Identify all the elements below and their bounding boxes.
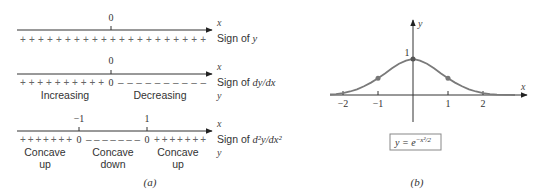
sign-pattern-negative: – – – – – – – [86, 134, 140, 145]
panel-b: x y −2 −1 1 2 1 y = e−x²/2 (b) [330, 18, 527, 189]
caption-a: (a) [144, 176, 157, 189]
tick-label-0: 0 [109, 12, 114, 23]
axis-label-x: x [216, 118, 222, 129]
region-label-concave-down-2: down [100, 158, 125, 170]
region-label-concave-up-left-2: up [39, 158, 51, 170]
region-label-concave-up-right-2: up [172, 158, 184, 170]
tick-label-neg1: −1 [74, 113, 85, 124]
figure: 0 x + + + + + + + + + + + + + + + + + + … [0, 0, 537, 196]
y-axis-label: y [417, 18, 423, 29]
sign-line-d2ydx2: −1 1 x + + + + + + + 0 – – – – – – – 0 +… [17, 113, 282, 170]
x-tick-label-neg2: −2 [338, 98, 349, 109]
max-point [411, 57, 416, 62]
inflection-point-neg1 [376, 76, 381, 81]
sign-pattern-negative: – – – – – – – – – – [118, 77, 206, 88]
region-label-concave-up-right: Concave [157, 146, 199, 158]
caption-b: (b) [411, 176, 424, 189]
zero-marker: 0 [109, 77, 114, 88]
zero-marker: 0 [145, 134, 150, 145]
sign-line-y: 0 x + + + + + + + + + + + + + + + + + + … [17, 12, 258, 45]
x-axis-label: x [520, 81, 526, 92]
var-label-y: y [216, 147, 222, 158]
sign-pattern: + + + + + + + + + + + + + + + + + + + + … [20, 34, 206, 45]
sign-pattern-positive-right: + + + + + + + [154, 134, 206, 145]
x-tick-label-2: 2 [481, 98, 486, 109]
sign-of-label: Sign of y [217, 32, 258, 44]
sign-line-dydx: 0 x + + + + + + + + + + 0 – – – – – – – … [17, 55, 276, 101]
region-label-concave-down: Concave [92, 146, 134, 158]
tick-label-0: 0 [109, 55, 114, 66]
sign-pattern-positive-left: + + + + + + + [20, 134, 72, 145]
y-tick-label-1: 1 [405, 47, 410, 58]
x-tick-label-neg1: −1 [373, 98, 384, 109]
inflection-point-1 [446, 76, 451, 81]
tick-label-1: 1 [145, 113, 150, 124]
axis-label-x: x [216, 17, 222, 28]
zero-marker: 0 [77, 134, 82, 145]
axis-label-x: x [216, 61, 222, 72]
sign-of-label: Sign of d²y/dx² [217, 133, 282, 145]
region-label-increasing: Increasing [41, 89, 90, 101]
gaussian-curve [330, 59, 515, 95]
region-label-concave-up-left: Concave [24, 146, 66, 158]
panel-a: 0 x + + + + + + + + + + + + + + + + + + … [17, 12, 282, 189]
region-label-decreasing: Decreasing [133, 89, 186, 101]
sign-of-label: Sign of dy/dx [217, 76, 276, 88]
sign-pattern-positive: + + + + + + + + + + [20, 77, 104, 88]
var-label-y: y [216, 90, 222, 101]
x-tick-label-1: 1 [446, 98, 451, 109]
